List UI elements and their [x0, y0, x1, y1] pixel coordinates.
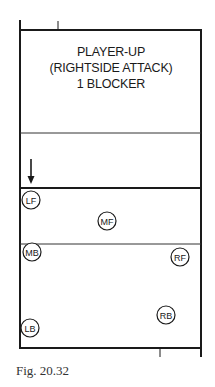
- player-lf: LF: [22, 191, 40, 209]
- down-arrow-icon: [28, 159, 35, 184]
- player-mb: MB: [23, 243, 41, 261]
- player-label: LB: [24, 324, 35, 334]
- player-lb: LB: [21, 319, 39, 337]
- title-line-3: 1 BLOCKER: [20, 76, 202, 92]
- player-rf: RF: [171, 248, 189, 266]
- player-rb: RB: [157, 306, 175, 324]
- player-label: MF: [101, 217, 114, 227]
- title-line-2: (RIGHTSIDE ATTACK): [20, 60, 202, 76]
- player-label: MB: [25, 248, 39, 258]
- diagram-title: PLAYER-UP (RIGHTSIDE ATTACK) 1 BLOCKER: [20, 44, 202, 92]
- player-label: LF: [26, 196, 37, 206]
- title-line-1: PLAYER-UP: [20, 44, 202, 60]
- player-label: RF: [174, 253, 186, 263]
- volleyball-court-diagram: LF MF MB RF RB LB PLAYER-UP (RIGHTSIDE A…: [0, 0, 215, 387]
- player-mf: MF: [98, 212, 116, 230]
- figure-caption: Fig. 20.32: [16, 363, 69, 379]
- player-label: RB: [160, 311, 173, 321]
